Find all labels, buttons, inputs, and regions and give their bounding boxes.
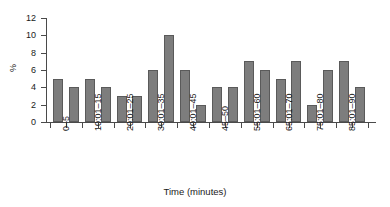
- y-axis-tick-label: 12: [18, 14, 36, 23]
- y-axis-tick: [41, 87, 46, 88]
- y-axis-tick-label: 8: [18, 49, 36, 58]
- x-axis-tick-label: 0–5: [62, 116, 71, 131]
- x-axis-tick: [82, 123, 83, 128]
- x-axis-title: Time (minutes): [0, 186, 390, 197]
- y-axis-tick-label: 2: [18, 101, 36, 110]
- x-axis-tick-label: 10:01–15: [94, 93, 103, 131]
- y-axis-tick-label: 6: [18, 66, 36, 75]
- y-axis-tick: [41, 70, 46, 71]
- y-axis-tick-label: 0: [18, 118, 36, 127]
- x-axis-tick-label: 30:01–35: [157, 93, 166, 131]
- x-axis-tick: [368, 123, 369, 128]
- histogram-chart: 024681012 % 0–510:01–1520:01–2530:01–354…: [0, 0, 390, 207]
- y-axis-tick: [41, 105, 46, 106]
- x-axis-tick-label: 85:01–90: [348, 93, 357, 131]
- y-axis-tick: [41, 35, 46, 36]
- x-axis-tick: [209, 123, 210, 128]
- y-axis-title: %: [8, 61, 18, 75]
- x-axis-tick: [50, 123, 51, 128]
- x-axis-tick: [304, 123, 305, 128]
- y-axis-line: [46, 18, 47, 123]
- x-axis-tick: [241, 123, 242, 128]
- x-axis-tick: [336, 123, 337, 128]
- y-axis-tick-label: 4: [18, 83, 36, 92]
- x-axis-tick: [273, 123, 274, 128]
- x-axis-tick: [114, 123, 115, 128]
- x-axis-tick-label: 45–50: [221, 106, 230, 131]
- x-axis-tick: [145, 123, 146, 128]
- x-axis-tick-label: 75:01–80: [316, 93, 325, 131]
- x-axis-tick-label: 55:01–60: [253, 93, 262, 131]
- x-axis-tick: [177, 123, 178, 128]
- y-axis-tick-label: 10: [18, 31, 36, 40]
- y-axis-tick: [41, 18, 46, 19]
- y-axis-tick: [41, 53, 46, 54]
- x-axis-tick-label: 40:01–45: [189, 93, 198, 131]
- x-axis-tick-label: 65:01–70: [285, 93, 294, 131]
- x-axis-tick-label: 20:01–25: [126, 93, 135, 131]
